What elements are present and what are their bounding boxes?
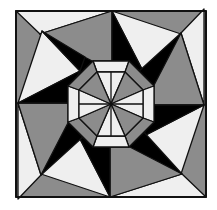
quilt-pattern (0, 0, 217, 210)
center-octagon (68, 61, 154, 147)
